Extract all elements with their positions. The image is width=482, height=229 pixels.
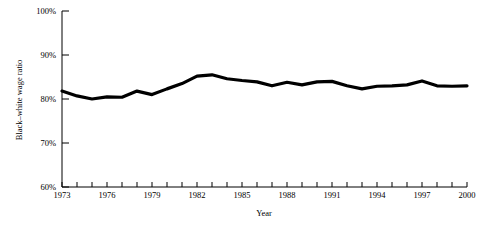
y-tick-label: 90% [40,50,56,60]
x-tick-label: 1991 [324,190,341,200]
y-tick-label: 80% [40,94,56,104]
x-axis-title: Year [256,208,272,218]
x-tick-label: 1979 [144,190,161,200]
series-line-black-white-wage-ratio [62,75,467,99]
x-tick-label: 1985 [234,190,251,200]
x-tick-label: 1973 [54,190,71,200]
x-tick-label: 1976 [99,190,116,200]
x-axis-tick-labels: 1973197619791982198519881991199419972000 [54,190,476,200]
y-axis-title: Black–white wage ratio [14,60,24,141]
y-axis-ticks [62,11,69,187]
x-tick-label: 2000 [459,190,476,200]
wage-ratio-line-chart: Black–white wage ratio 60% 70% 80% 90% 1… [0,0,482,229]
y-tick-label: 100% [36,6,56,16]
x-tick-label: 1982 [189,190,206,200]
x-tick-label: 1988 [279,190,296,200]
x-tick-label: 1994 [369,190,387,200]
y-axis-tick-labels: 60% 70% 80% 90% 100% [36,6,56,192]
x-axis-ticks [62,182,467,187]
y-tick-label: 70% [40,138,56,148]
x-tick-label: 1997 [414,190,431,200]
chart-container: Black–white wage ratio 60% 70% 80% 90% 1… [0,0,482,229]
